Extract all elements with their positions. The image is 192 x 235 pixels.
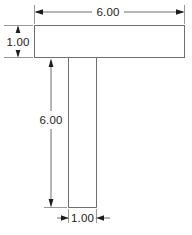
arrowhead-stem-bottom — [49, 199, 54, 208]
arrowhead-left-down — [16, 50, 21, 58]
dimension-left-thickness: 1.00 — [4, 26, 33, 58]
dimension-label-left-thickness: 1.00 — [7, 36, 30, 48]
arrowhead-left-up — [16, 26, 21, 34]
drawing-svg: 6.00 1.00 6.00 — [0, 0, 192, 235]
dimension-label-top-width: 6.00 — [97, 6, 120, 18]
dimension-label-stem-width: 1.00 — [71, 212, 94, 224]
flange-rect — [35, 26, 185, 58]
arrowhead-stem-top — [49, 59, 54, 68]
technical-drawing-canvas: 6.00 1.00 6.00 — [0, 0, 192, 235]
dimension-stem-width: 1.00 — [57, 209, 110, 224]
dimension-top-width: 6.00 — [35, 5, 185, 24]
arrowhead-bottom-left — [61, 215, 69, 220]
dimension-label-stem-height: 6.00 — [40, 114, 63, 126]
dimension-stem-height: 6.00 — [40, 59, 67, 208]
arrowhead-top-left — [35, 9, 44, 14]
arrowhead-top-right — [176, 9, 185, 14]
web-outline — [69, 58, 97, 208]
arrowhead-bottom-right — [97, 215, 105, 220]
